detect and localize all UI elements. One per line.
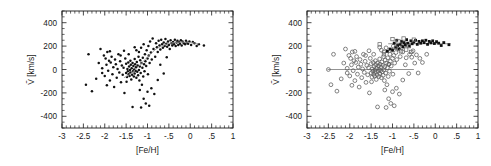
data-point	[416, 71, 420, 75]
data-point	[384, 46, 388, 50]
xtick-label: -2	[101, 132, 109, 141]
data-point	[109, 50, 112, 53]
data-point	[421, 61, 425, 65]
data-point	[143, 70, 146, 73]
data-point	[127, 53, 130, 56]
y-axis-title: Ṽ [km/s]	[271, 54, 281, 84]
data-point	[116, 68, 119, 71]
data-point	[404, 56, 408, 60]
panel-right: -3-2.5-2-1.5-1-.50.51-400-2000200400[Fe/…	[245, 0, 490, 166]
xtick-label: -1	[389, 132, 397, 141]
data-point	[339, 77, 343, 81]
data-point	[329, 83, 333, 87]
data-point	[133, 46, 136, 49]
ytick-label: 200	[288, 42, 302, 51]
data-point	[127, 70, 129, 73]
right-xticklabels: -3-2.5-2-1.5-1-.50.51	[303, 132, 480, 141]
data-point	[120, 81, 123, 84]
data-point	[139, 72, 142, 75]
data-point	[125, 62, 128, 65]
data-point	[140, 47, 143, 50]
data-point	[203, 44, 206, 47]
data-point	[418, 56, 422, 60]
data-point	[139, 59, 142, 62]
xtick-label: -3	[58, 132, 66, 141]
data-point	[149, 40, 152, 43]
data-point	[111, 73, 114, 76]
data-point	[105, 64, 108, 67]
xtick-label: 0	[188, 132, 193, 141]
data-point	[142, 43, 145, 46]
data-point	[133, 75, 136, 78]
data-point	[363, 59, 367, 63]
data-point	[142, 57, 145, 60]
data-point	[150, 87, 153, 90]
data-point	[358, 58, 362, 62]
data-point	[426, 43, 429, 46]
data-point	[106, 51, 109, 54]
data-point	[386, 56, 390, 60]
data-point	[131, 62, 134, 65]
data-point	[167, 40, 170, 43]
ytick-label: 0	[297, 66, 302, 75]
xtick-label: -1.5	[364, 132, 379, 141]
data-point	[143, 63, 146, 66]
data-point	[391, 37, 394, 40]
data-point	[392, 104, 396, 108]
data-point	[160, 38, 163, 41]
data-point	[104, 75, 107, 78]
data-point	[134, 63, 137, 66]
data-point	[388, 69, 392, 73]
xtick-label: -3	[303, 132, 311, 141]
data-point	[389, 48, 392, 51]
data-point	[154, 55, 157, 58]
data-point	[142, 98, 145, 101]
data-point	[138, 51, 141, 54]
data-point	[404, 48, 407, 51]
ytick-label: -400	[41, 112, 58, 121]
data-point	[180, 44, 183, 47]
left-yticklabels: -400-2000200400	[41, 19, 58, 122]
data-point	[98, 62, 101, 65]
data-point	[397, 92, 401, 96]
data-point	[151, 37, 154, 40]
data-point	[169, 39, 172, 42]
data-point	[415, 53, 419, 57]
data-point	[136, 61, 139, 64]
data-point	[147, 73, 150, 76]
data-point	[135, 76, 138, 79]
data-point	[104, 57, 107, 60]
data-point	[162, 41, 165, 44]
ytick-label: 0	[52, 66, 57, 75]
data-point	[344, 47, 348, 51]
data-point	[332, 52, 336, 56]
data-point	[109, 61, 112, 64]
data-point	[425, 52, 429, 56]
data-point	[174, 38, 177, 41]
data-point	[370, 80, 374, 84]
data-point	[350, 83, 354, 87]
x-axis-title: [Fe/H]	[381, 145, 404, 155]
data-point	[384, 71, 388, 75]
ytick-label: 200	[43, 42, 57, 51]
data-point	[153, 93, 156, 96]
data-point	[126, 68, 129, 71]
xtick-label: 1	[476, 132, 481, 141]
xtick-label: 0	[433, 132, 438, 141]
xtick-label: -1	[144, 132, 152, 141]
data-point	[393, 61, 397, 65]
data-point	[118, 71, 121, 74]
data-point	[389, 102, 393, 106]
data-point	[424, 39, 427, 42]
data-point	[187, 43, 190, 46]
data-point	[353, 79, 357, 83]
data-point	[122, 66, 125, 69]
left-plot-svg: -3-2.5-2-1.5-1-.50.51-400-2000200400[Fe/…	[0, 0, 245, 166]
data-point	[335, 89, 339, 93]
data-point	[147, 45, 150, 48]
xtick-label: -.5	[164, 132, 174, 141]
data-point	[355, 55, 359, 59]
data-point	[368, 56, 372, 60]
data-point	[130, 67, 133, 70]
data-point	[386, 50, 389, 53]
